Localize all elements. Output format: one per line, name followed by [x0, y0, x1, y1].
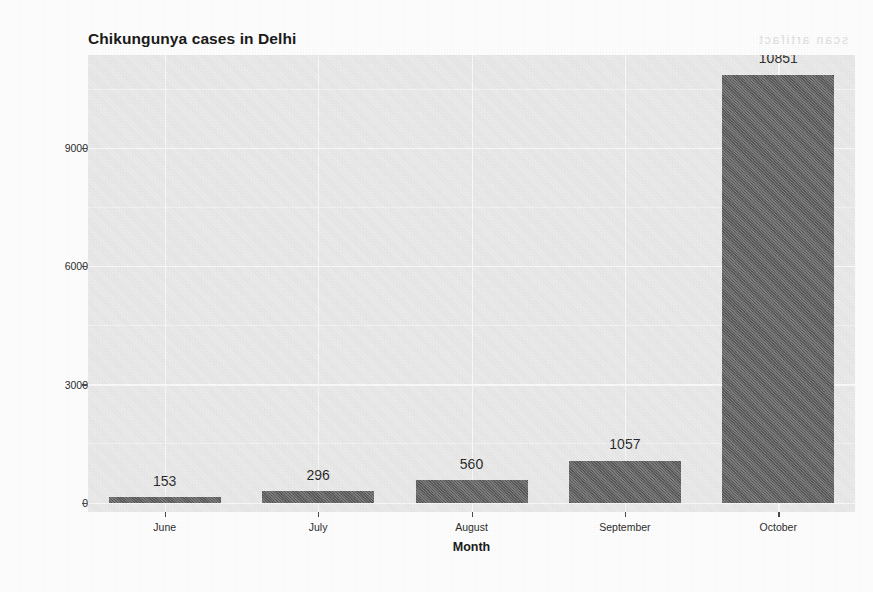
chart-page: Chikungunya cases in Delhi scan artifact [0, 0, 873, 592]
bar-value-label-september: 1057 [569, 436, 681, 452]
bar-value-label-june: 153 [109, 473, 221, 489]
bar-texture [569, 461, 681, 503]
scan-bleed-through-artifact: scan artifact [688, 33, 848, 46]
bar-july [262, 491, 374, 503]
x-tick-mark-august [472, 512, 473, 517]
bar-texture [722, 75, 834, 503]
x-tick-mark-september [625, 512, 626, 517]
bar-texture [262, 491, 374, 503]
chart-title: Chikungunya cases in Delhi [88, 30, 296, 48]
gridline-vert-august [472, 55, 473, 512]
y-tick-label-9000: 9000 [14, 142, 88, 154]
y-tick-mark-6000 [82, 266, 87, 267]
plot-panel: 153 296 560 1057 10851 [88, 55, 855, 512]
gridline-vert-july [318, 55, 319, 512]
bar-october [722, 75, 834, 503]
y-tick-label-0: 0 [14, 497, 88, 509]
gridline-vert-june [165, 55, 166, 512]
x-tick-mark-october [778, 512, 779, 517]
y-tick-mark-3000 [82, 384, 87, 385]
bar-value-label-august: 560 [416, 456, 528, 472]
x-tick-label-july: July [262, 521, 374, 533]
x-tick-label-august: August [416, 521, 528, 533]
bar-texture [416, 480, 528, 502]
bar-june [109, 497, 221, 503]
y-tick-label-3000: 3000 [14, 379, 88, 391]
y-tick-mark-9000 [82, 148, 87, 149]
x-tick-mark-july [318, 512, 319, 517]
y-axis: 0 3000 6000 9000 Number of Cases [0, 0, 88, 592]
y-tick-label-6000: 6000 [14, 260, 88, 272]
x-axis-title: Month [88, 540, 855, 554]
bar-texture [109, 497, 221, 503]
bar-value-label-october: 10851 [722, 55, 834, 66]
bar-september [569, 461, 681, 503]
x-tick-mark-june [165, 512, 166, 517]
x-tick-label-october: October [722, 521, 834, 533]
bar-value-label-july: 296 [262, 467, 374, 483]
y-tick-mark-0 [82, 503, 87, 504]
bar-august [416, 480, 528, 502]
x-tick-label-june: June [109, 521, 221, 533]
x-tick-label-september: September [569, 521, 681, 533]
